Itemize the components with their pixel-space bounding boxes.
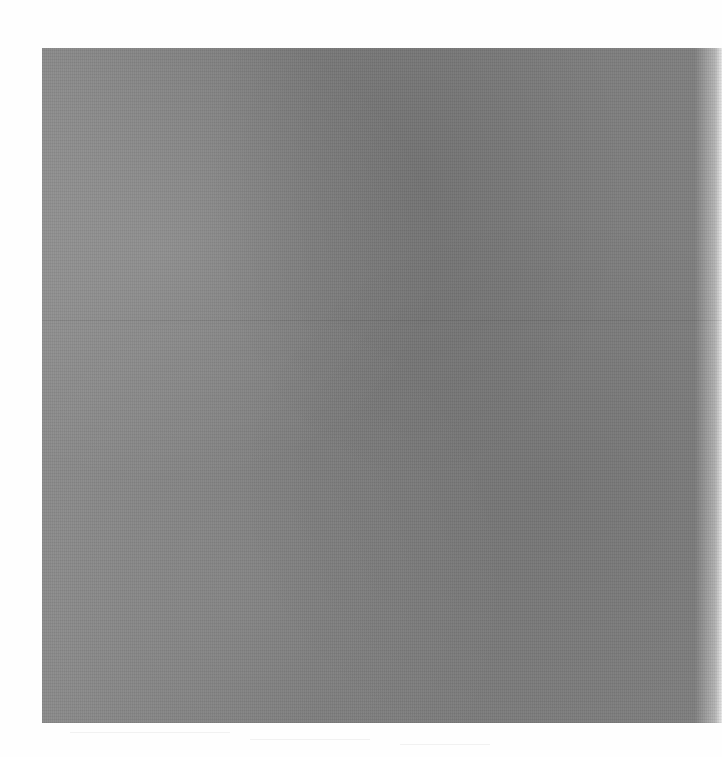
scan-bleed-through-marks xyxy=(40,730,680,750)
scanned-page xyxy=(0,0,722,757)
gray-halftone-figure xyxy=(42,48,722,723)
